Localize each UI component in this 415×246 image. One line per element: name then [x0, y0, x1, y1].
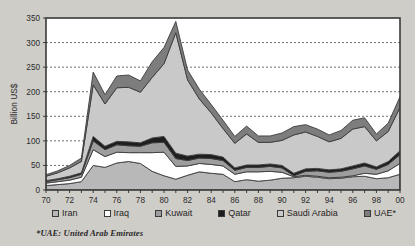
x-tick-label-1996: 96	[348, 196, 358, 205]
y-tick-label-350: 350	[26, 14, 40, 23]
x-tick-label-1982: 82	[183, 196, 193, 205]
x-tick-label-2000: 00	[395, 196, 405, 205]
y-tick-label-100: 100	[26, 137, 40, 146]
chart-figure: 050100150200250300350 707274767880828486…	[0, 0, 415, 246]
legend-swatch-icon	[52, 210, 59, 217]
x-tick-label-1992: 92	[301, 196, 311, 205]
y-axis-label: Billion US$	[9, 83, 19, 124]
x-tick-label-1990: 90	[277, 196, 287, 205]
x-tick-label-1976: 76	[112, 196, 122, 205]
x-tick-label-1984: 84	[207, 196, 217, 205]
legend-label: Iran	[62, 209, 78, 218]
y-tick-label-0: 0	[35, 186, 40, 195]
x-tick-label-1980: 80	[159, 196, 169, 205]
x-tick-label-1970: 70	[41, 196, 51, 205]
legend-swatch-icon	[364, 210, 371, 217]
legend-item-iraq[interactable]: Iraq	[104, 209, 130, 218]
legend-swatch-icon	[277, 210, 284, 217]
x-tick-label-1972: 72	[65, 196, 75, 205]
legend-swatch-icon	[104, 210, 111, 217]
y-tick-label-300: 300	[26, 39, 40, 48]
legend-label: UAE*	[374, 209, 396, 218]
y-tick-label-50: 50	[31, 161, 41, 170]
legend-swatch-icon	[155, 210, 162, 217]
legend-swatch-icon	[218, 210, 225, 217]
y-tick-label-250: 250	[26, 63, 40, 72]
legend-item-saudi-arabia[interactable]: Saudi Arabia	[277, 209, 338, 218]
legend-label: Iraq	[114, 209, 130, 218]
x-tick-label-1974: 74	[89, 196, 99, 205]
legend-item-uae-[interactable]: UAE*	[364, 209, 396, 218]
legend-item-iran[interactable]: Iran	[52, 209, 78, 218]
legend-label: Saudi Arabia	[287, 209, 338, 218]
x-tick-label-1994: 94	[325, 196, 335, 205]
legend-item-qatar[interactable]: Qatar	[218, 209, 251, 218]
legend-label: Kuwait	[165, 209, 192, 218]
legend-item-kuwait[interactable]: Kuwait	[155, 209, 192, 218]
x-tick-label-1978: 78	[136, 196, 146, 205]
legend-label: Qatar	[228, 209, 251, 218]
y-tick-label-150: 150	[26, 112, 40, 121]
chart-legend: IranIraqKuwaitQatarSaudi ArabiaUAE*	[46, 205, 402, 221]
x-tick-label-1998: 98	[372, 196, 382, 205]
x-tick-label-1986: 86	[230, 196, 240, 205]
x-tick-label-1988: 88	[254, 196, 264, 205]
y-tick-label-200: 200	[26, 88, 40, 97]
footnote: *UAE: United Arab Emirates	[36, 228, 143, 238]
